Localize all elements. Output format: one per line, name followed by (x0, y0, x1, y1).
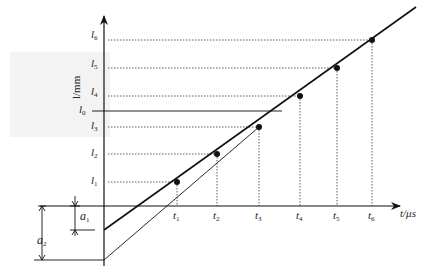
y-tick-l3: l3 (91, 120, 98, 133)
vertical-guides (177, 40, 372, 206)
y-tick-l0: l0 (79, 104, 86, 117)
a2-dimension (34, 206, 104, 260)
line-a2 (104, 127, 259, 260)
y-tick-l2: l2 (91, 147, 98, 160)
x-tick-t6: t6 (368, 210, 375, 223)
y-tick-l4: l4 (91, 86, 98, 99)
x-tick-t1: t1 (173, 210, 180, 223)
y-tick-l6: l6 (91, 29, 98, 42)
a1-label: a1 (80, 210, 90, 224)
x-tick-t5: t5 (333, 210, 340, 223)
diagram-canvas (0, 0, 430, 278)
x-tick-t4: t4 (296, 210, 303, 223)
y-tick-l5: l5 (91, 58, 98, 71)
a2-label: a2 (37, 234, 47, 248)
x-axis-label: t/μs (400, 208, 416, 219)
y-tick-l1: l1 (91, 175, 98, 188)
x-tick-t3: t3 (255, 210, 262, 223)
x-tick-t2: t2 (213, 210, 220, 223)
y-axis-label: l/mm (70, 76, 82, 99)
